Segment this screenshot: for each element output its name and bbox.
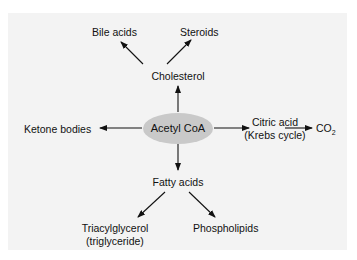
node-triacylglycerol: Triacylglycerol <box>80 222 150 234</box>
co2-text: CO <box>316 122 332 134</box>
arrow-to-phospholipids <box>189 192 215 217</box>
node-fatty-acids: Fatty acids <box>130 176 226 188</box>
node-bile-acids: Bile acids <box>92 26 137 38</box>
node-cholesterol: Cholesterol <box>130 70 226 82</box>
node-phospholipids: Phospholipids <box>193 222 258 234</box>
arrow-to-steroids <box>167 40 191 64</box>
arrow-to-triacylglycerol <box>138 192 165 217</box>
co2-subscript: 2 <box>332 129 336 136</box>
node-citric-acid: Citric acid <box>250 116 300 128</box>
arrow-to-bile-acids <box>121 42 143 64</box>
node-acetyl-coa: Acetyl CoA <box>143 122 213 134</box>
node-co2: CO2 <box>316 122 336 139</box>
node-steroids: Steroids <box>180 26 219 38</box>
node-krebs-cycle: (Krebs cycle) <box>218 129 332 141</box>
node-ketone-bodies: Ketone bodies <box>24 123 91 135</box>
node-triglyceride: (triglyceride) <box>80 235 150 247</box>
